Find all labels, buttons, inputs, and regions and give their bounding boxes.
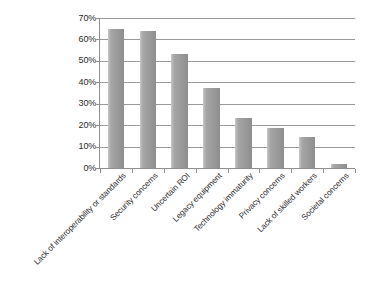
bar-chart: 70%60%50%40%30%20%10%0% Lack of interope… xyxy=(0,0,375,303)
x-axis-tick-mark xyxy=(228,169,229,173)
y-axis-tick-mark xyxy=(95,147,100,148)
x-axis-tick-mark xyxy=(132,169,133,173)
x-axis-category-labels: Lack of interoperability or standardsSec… xyxy=(0,0,375,303)
x-axis-tick-mark xyxy=(100,169,101,173)
x-axis-tick-mark xyxy=(291,169,292,173)
x-axis-tick-mark xyxy=(323,169,324,173)
y-axis-tick-mark xyxy=(95,82,100,83)
y-axis-tick-mark xyxy=(95,104,100,105)
x-axis-tick-mark xyxy=(164,169,165,173)
y-axis-tick-mark xyxy=(95,39,100,40)
x-axis-category-label: Lack of skilled workers xyxy=(257,172,319,234)
x-axis-tick-mark xyxy=(196,169,197,173)
x-axis-tick-mark xyxy=(355,169,356,173)
y-axis-tick-mark xyxy=(95,125,100,126)
y-axis-tick-mark xyxy=(95,18,100,19)
plot-area: 70%60%50%40%30%20%10%0% Lack of interope… xyxy=(0,0,375,303)
x-axis-tick-mark xyxy=(259,169,260,173)
y-axis-tick-mark xyxy=(95,61,100,62)
x-axis-category-label: Technology immaturity xyxy=(193,172,255,234)
